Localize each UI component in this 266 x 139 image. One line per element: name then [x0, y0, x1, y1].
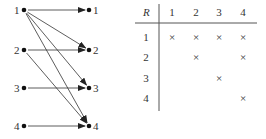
- row-header: 4: [143, 92, 149, 104]
- right-node-label: 3: [93, 82, 99, 94]
- relation-table: R 1234 1××××2××3×4×: [135, 4, 257, 111]
- right-nodes: 1234: [87, 4, 99, 132]
- left-node-dot: [22, 86, 27, 91]
- row-header: 3: [143, 72, 149, 84]
- right-node-dot: [87, 48, 92, 53]
- edges: [26, 10, 87, 126]
- cell-mark: ×: [240, 51, 246, 63]
- left-nodes: 1234: [14, 4, 26, 132]
- cell-mark: ×: [193, 51, 199, 63]
- left-node-label: 2: [14, 44, 20, 56]
- right-node-dot: [87, 124, 92, 129]
- cell-mark: ×: [240, 31, 246, 43]
- edge-arrow: [27, 13, 87, 85]
- table-corner-label: R: [142, 6, 150, 18]
- row-header: 1: [143, 31, 149, 43]
- right-node-dot: [87, 86, 92, 91]
- relation-figure: 1234 1234 R 1234 1××××2××3×4×: [0, 0, 266, 139]
- cell-mark: ×: [240, 92, 246, 104]
- column-header: 1: [169, 6, 175, 18]
- column-header: 2: [193, 6, 199, 18]
- table-row: 3×: [143, 72, 222, 84]
- right-node-label: 4: [93, 120, 99, 132]
- column-header: 3: [216, 6, 222, 18]
- left-node-dot: [22, 48, 27, 53]
- right-node-dot: [87, 8, 92, 13]
- right-node-label: 1: [93, 4, 99, 16]
- cell-mark: ×: [169, 31, 175, 43]
- edge-arrow: [27, 12, 85, 48]
- left-node-label: 3: [14, 82, 20, 94]
- cell-mark: ×: [216, 31, 222, 43]
- column-headers: 1234: [169, 6, 246, 18]
- right-node-label: 2: [93, 44, 99, 56]
- row-header: 2: [143, 51, 149, 63]
- bipartite-graph: 1234 1234: [14, 4, 99, 132]
- left-node-dot: [22, 124, 27, 129]
- left-node-label: 4: [14, 120, 20, 132]
- cell-mark: ×: [193, 31, 199, 43]
- left-node-dot: [22, 8, 27, 13]
- column-header: 4: [240, 6, 246, 18]
- left-node-label: 1: [14, 4, 20, 16]
- cell-mark: ×: [216, 72, 222, 84]
